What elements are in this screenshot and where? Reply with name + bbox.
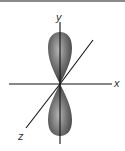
x-axis-label: x: [114, 78, 120, 89]
orbital-diagram: [0, 0, 125, 151]
z-axis-label: z: [18, 131, 24, 142]
y-axis-label: y: [56, 12, 62, 23]
